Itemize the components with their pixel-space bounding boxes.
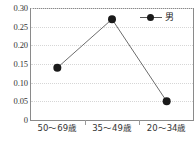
filled-circle-marker-icon bbox=[147, 14, 154, 21]
legend: 男 bbox=[140, 13, 174, 22]
data-point-marker bbox=[53, 64, 61, 72]
data-point-marker bbox=[163, 97, 171, 105]
data-point-marker bbox=[108, 15, 116, 23]
legend-marker-sample bbox=[140, 13, 162, 22]
line-chart: 0.300.250.200.150.100.050 50〜69歳35〜49歳20… bbox=[0, 0, 196, 143]
legend-entry-label: 男 bbox=[165, 13, 174, 22]
series-line bbox=[57, 19, 166, 101]
